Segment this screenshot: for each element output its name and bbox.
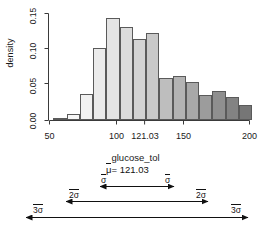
x-tick-label-3: 150 [176,131,191,141]
y-axis-label: density [5,23,15,83]
y-tick-label-3: 0.15 [28,3,38,29]
y-tick-label-0: 0.00 [28,108,38,134]
histogram-bar [80,94,93,120]
histogram-bar [239,105,252,120]
sigma-arrows [0,162,271,235]
sigma-diagram-panel: μ= 121.03 σ σ 2σ 2σ 3σ 3σ [0,162,271,235]
x-tick-label-1: 100 [109,131,124,141]
histogram-bar [186,82,199,120]
x-tick-label-2: 121.03 [131,131,159,141]
histogram-bar [146,33,159,120]
histogram-bar [106,18,119,120]
y-tick-label-1: 0.05 [28,73,38,99]
histogram-bar [133,39,146,120]
histogram-bar [159,78,172,120]
plot-area [48,12,256,120]
histogram-bar [53,118,66,120]
histogram-bar [212,91,225,120]
histogram-bar [199,95,212,120]
histogram-bar [67,114,80,120]
x-axis [44,120,260,130]
histogram-panel: density 0.00 0.05 0.10 0.15 50 100 121.0… [0,0,271,150]
histogram-bar [120,27,133,120]
histogram-bar [173,76,186,120]
histogram-bar [93,48,106,120]
figure-root: density 0.00 0.05 0.10 0.15 50 100 121.0… [0,0,271,235]
y-tick-label-2: 0.10 [28,38,38,64]
x-tick-label-0: 50 [44,131,54,141]
x-tick-label-4: 200 [242,131,257,141]
histogram-bar [226,97,239,120]
